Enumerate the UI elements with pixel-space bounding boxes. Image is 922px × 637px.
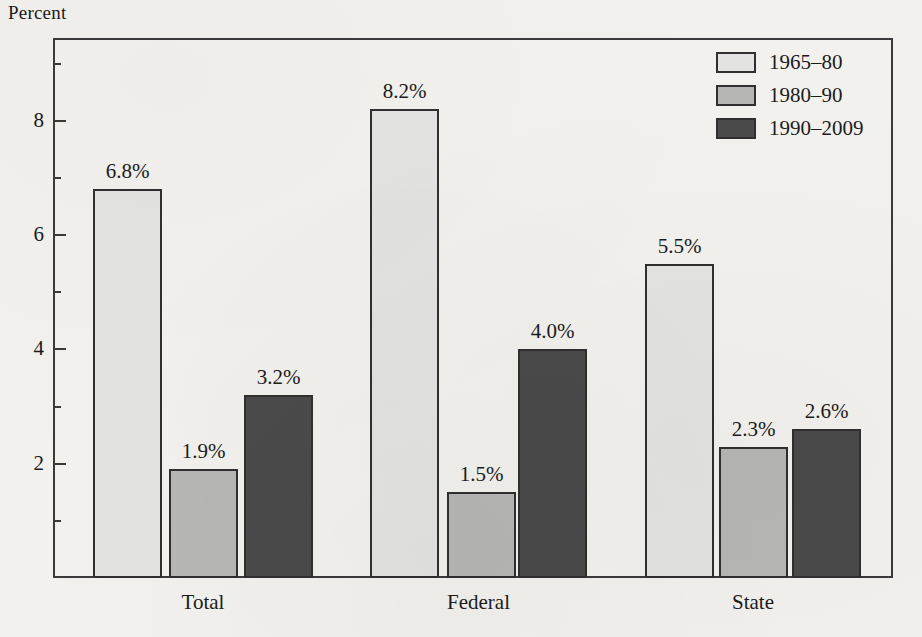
- y-axis-tick-label: 2: [4, 453, 44, 474]
- bar: [447, 492, 516, 578]
- y-axis-major-tick: [53, 463, 66, 465]
- bar-value-label: 5.5%: [629, 236, 730, 257]
- bar-value-label: 1.5%: [431, 464, 532, 485]
- bar-value-label: 2.6%: [776, 401, 877, 422]
- category-label: Federal: [389, 592, 569, 613]
- category-label: State: [663, 592, 843, 613]
- bar: [169, 469, 238, 578]
- chart-legend: 1965–801980–901990–2009: [716, 46, 864, 145]
- y-axis-tick-label: 4: [4, 338, 44, 359]
- bar-value-label: 3.2%: [228, 367, 329, 388]
- bar: [518, 349, 587, 578]
- legend-label: 1980–90: [769, 85, 843, 106]
- y-axis-minor-tick: [53, 520, 61, 522]
- y-axis-major-tick: [53, 120, 66, 122]
- bar: [244, 395, 313, 578]
- y-axis-tick-label: 6: [4, 224, 44, 245]
- y-axis-minor-tick: [53, 291, 61, 293]
- legend-item: 1980–90: [716, 79, 864, 112]
- y-axis-major-tick: [53, 348, 66, 350]
- y-axis-minor-tick: [53, 406, 61, 408]
- bar-value-label: 6.8%: [77, 161, 178, 182]
- bar: [370, 109, 439, 578]
- legend-swatch: [716, 85, 756, 106]
- bar: [792, 429, 861, 578]
- legend-label: 1990–2009: [769, 118, 864, 139]
- bar-value-label: 1.9%: [153, 441, 254, 462]
- bar-value-label: 8.2%: [354, 81, 455, 102]
- legend-swatch: [716, 52, 756, 73]
- bar-chart: Percent 2468 6.8%1.9%3.2%8.2%1.5%4.0%5.5…: [0, 0, 922, 637]
- y-axis-tick-label: 8: [4, 110, 44, 131]
- legend-swatch: [716, 118, 756, 139]
- bar: [719, 447, 788, 578]
- y-axis-major-tick: [53, 234, 66, 236]
- bar-value-label: 4.0%: [502, 321, 603, 342]
- bar: [93, 189, 162, 578]
- y-axis-minor-tick: [53, 63, 61, 65]
- y-axis-minor-tick: [53, 177, 61, 179]
- legend-item: 1990–2009: [716, 112, 864, 145]
- legend-item: 1965–80: [716, 46, 864, 79]
- y-axis-title: Percent: [8, 2, 66, 25]
- legend-label: 1965–80: [769, 52, 843, 73]
- category-label: Total: [113, 592, 293, 613]
